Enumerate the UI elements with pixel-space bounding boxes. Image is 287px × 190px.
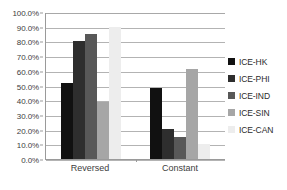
x-axis-tick — [136, 159, 137, 162]
legend-item-ice-sin[interactable]: ICE-SIN — [228, 104, 287, 121]
y-axis-tick-label: 90.0% — [17, 23, 39, 32]
legend-item-ice-phi[interactable]: ICE-PHI — [228, 70, 287, 87]
y-axis-tick — [40, 27, 43, 28]
y-axis-tick-label: 30.0% — [17, 111, 39, 120]
y-axis-tick — [40, 71, 43, 72]
bar-ice-can-reversed — [109, 27, 121, 159]
y-axis-tick-label: 40.0% — [17, 97, 39, 106]
x-axis-category-label: Reversed — [45, 163, 135, 173]
y-axis-tick-label: 0.0% — [21, 156, 39, 165]
y-axis: 0.0%10.0%20.0%30.0%40.0%50.0%60.0%70.0%8… — [0, 13, 43, 160]
y-axis-tick — [40, 145, 43, 146]
bar-ice-sin-constant — [186, 69, 198, 159]
y-axis-tick — [40, 13, 43, 14]
bar-ice-hk-reversed — [61, 83, 73, 159]
y-axis-tick — [40, 115, 43, 116]
y-axis-tick-label: 10.0% — [17, 141, 39, 150]
legend-swatch-icon — [228, 92, 235, 99]
bar-group — [46, 13, 136, 159]
legend-label: ICE-IND — [239, 91, 270, 101]
legend-item-ice-ind[interactable]: ICE-IND — [228, 87, 287, 104]
bar-ice-hk-constant — [150, 88, 162, 159]
x-axis-labels: ReversedConstant — [45, 163, 225, 173]
y-axis-tick — [40, 160, 43, 161]
legend-label: ICE-CAN — [239, 125, 273, 135]
legend-swatch-icon — [228, 58, 235, 65]
y-axis-tick-label: 60.0% — [17, 67, 39, 76]
bar-ice-ind-constant — [174, 137, 186, 159]
legend-item-ice-can[interactable]: ICE-CAN — [228, 121, 287, 138]
bar-group — [136, 13, 226, 159]
y-axis-tick-label: 70.0% — [17, 53, 39, 62]
y-axis-tick — [40, 130, 43, 131]
legend-label: ICE-SIN — [239, 108, 269, 118]
legend-item-ice-hk[interactable]: ICE-HK — [228, 53, 287, 70]
legend-swatch-icon — [228, 75, 235, 82]
y-axis-tick — [40, 101, 43, 102]
y-axis-tick-label: 80.0% — [17, 38, 39, 47]
y-axis-tick-label: 100.0% — [12, 9, 39, 18]
x-axis-category-label: Constant — [135, 163, 225, 173]
bar-ice-phi-constant — [162, 129, 174, 159]
bar-ice-can-constant — [198, 144, 210, 159]
y-axis-tick-label: 20.0% — [17, 126, 39, 135]
plot-area — [45, 13, 225, 160]
legend-label: ICE-HK — [239, 57, 267, 67]
legend: ICE-HKICE-PHIICE-INDICE-SINICE-CAN — [228, 53, 287, 138]
bar-ice-ind-reversed — [85, 34, 97, 159]
bar-ice-phi-reversed — [73, 41, 85, 159]
bar-ice-sin-reversed — [97, 102, 109, 159]
y-axis-tick — [40, 86, 43, 87]
legend-swatch-icon — [228, 126, 235, 133]
bar-chart: 0.0%10.0%20.0%30.0%40.0%50.0%60.0%70.0%8… — [0, 0, 287, 190]
legend-label: ICE-PHI — [239, 74, 269, 84]
y-axis-tick-label: 50.0% — [17, 82, 39, 91]
bar-groups — [46, 13, 225, 159]
legend-swatch-icon — [228, 109, 235, 116]
y-axis-tick — [40, 57, 43, 58]
y-axis-tick — [40, 42, 43, 43]
